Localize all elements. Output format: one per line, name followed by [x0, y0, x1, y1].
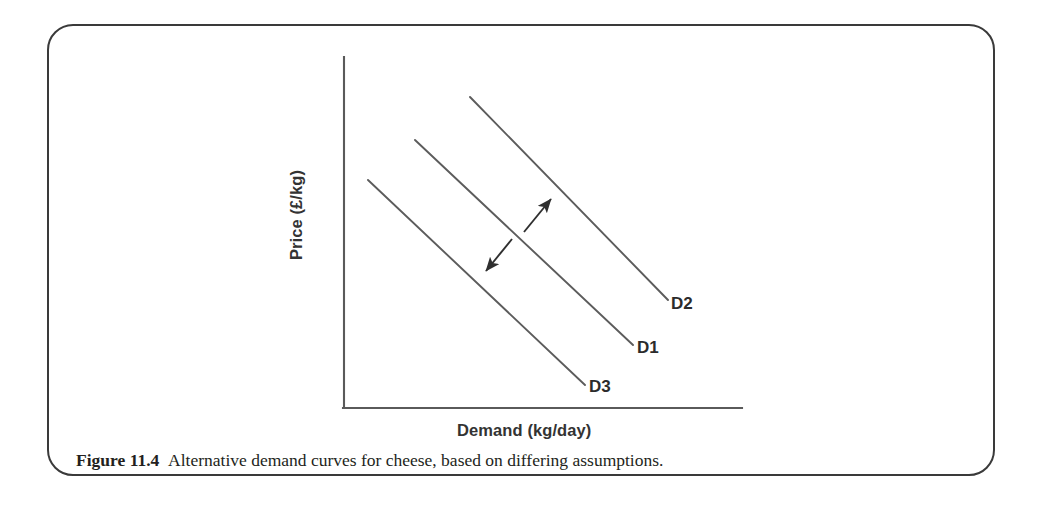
- curve-label-d2: D2: [671, 294, 693, 314]
- curve-label-d1: D1: [637, 338, 659, 358]
- figure-caption-description: Alternative demand curves for cheese, ba…: [168, 450, 663, 470]
- figure-caption: Figure 11.4 Alternative demand curves fo…: [76, 450, 956, 471]
- curve-label-d3: D3: [589, 377, 611, 397]
- figure-page: Price (£/kg) Demand (kg/day) D2 D1 D3 Fi…: [0, 0, 1046, 514]
- figure-caption-number: Figure 11.4: [76, 450, 159, 470]
- x-axis-label: Demand (kg/day): [457, 421, 591, 440]
- y-axis-label: Price (£/kg): [287, 170, 306, 260]
- figure-border-frame: [47, 24, 995, 476]
